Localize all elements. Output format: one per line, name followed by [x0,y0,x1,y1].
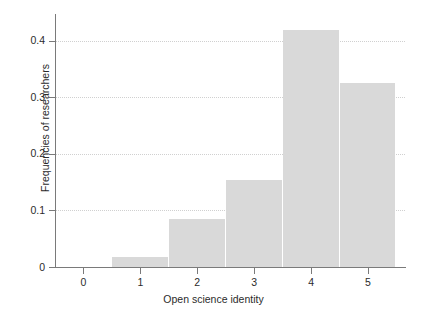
bar-1 [112,257,169,267]
x-axis-line [55,267,406,268]
plot-area [55,18,405,267]
x-tick-label-2: 2 [185,277,209,288]
bar-4 [283,30,340,267]
x-tick-mark-3 [254,268,255,274]
bar-5 [340,83,397,267]
x-tick-label-4: 4 [299,277,323,288]
y-axis-title: Frequencies of researchers [39,3,51,253]
bar-3 [226,180,283,267]
x-tick-mark-0 [83,268,84,274]
x-tick-mark-2 [197,268,198,274]
x-tick-mark-5 [368,268,369,274]
x-tick-label-1: 1 [128,277,152,288]
x-tick-label-3: 3 [242,277,266,288]
gridline-y-0.4 [55,41,405,42]
y-tick-mark-0 [49,267,55,268]
x-tick-label-5: 5 [356,277,380,288]
bar-2 [169,219,226,267]
x-tick-mark-4 [311,268,312,274]
x-tick-label-0: 0 [71,277,95,288]
x-axis-title: Open science identity [0,293,427,305]
y-tick-label-0: 0 [39,262,45,273]
histogram-figure: 00.10.20.30.4 012345 Frequencies of rese… [0,0,427,316]
y-axis-line [55,14,56,267]
x-tick-mark-1 [140,268,141,274]
